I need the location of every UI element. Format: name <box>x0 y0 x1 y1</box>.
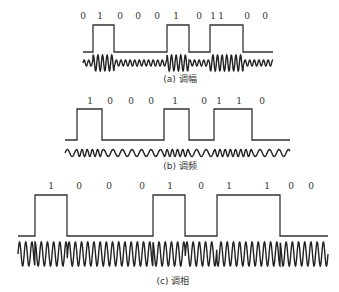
bit-label: 1 <box>97 11 103 21</box>
bit-label: 0 <box>244 11 250 21</box>
bit-label: 1 <box>167 181 173 191</box>
bit-label: 0 <box>106 181 112 191</box>
pm-waveform <box>18 242 328 266</box>
bit-label: 1 <box>172 96 178 106</box>
bit-label: 0 <box>196 11 202 21</box>
bit-label: 1 <box>216 96 222 106</box>
fm-waveform <box>65 150 290 157</box>
bit-label: 1 <box>226 181 232 191</box>
bit-labels: 100010110 <box>87 96 265 106</box>
bit-label: 0 <box>259 96 265 106</box>
panel-pm: 1000101100 (c) 调相 <box>18 181 328 286</box>
bit-label: 0 <box>117 11 123 21</box>
bit-label: 0 <box>262 11 268 21</box>
bit-label: 1 <box>173 11 179 21</box>
caption-fm: (b) 调频 <box>163 160 197 171</box>
panel-am: 01000101100 (a) 调幅 <box>80 11 273 84</box>
bit-label: 1 <box>264 181 270 191</box>
bit-label: 0 <box>128 96 134 106</box>
caption-am: (a) 调幅 <box>163 73 196 84</box>
bit-label: 0 <box>154 11 160 21</box>
modulation-diagram: 01000101100 (a) 调幅 100010110 (b) 调频 1000… <box>0 0 339 292</box>
bit-label: 0 <box>288 181 294 191</box>
bit-label: 1 <box>87 96 93 106</box>
digital-signal <box>65 109 290 140</box>
bit-label: 0 <box>76 181 82 191</box>
bit-label: 0 <box>148 96 154 106</box>
bit-labels: 1000101100 <box>48 181 314 191</box>
digital-signal <box>83 25 273 52</box>
am-waveform <box>83 55 273 71</box>
bit-label: 1 <box>218 11 224 21</box>
bit-label: 0 <box>198 181 204 191</box>
bit-label: 0 <box>308 181 314 191</box>
bit-label: 0 <box>135 11 141 21</box>
digital-signal <box>18 195 328 236</box>
bit-label: 0 <box>201 96 207 106</box>
bit-label: 1 <box>236 96 242 106</box>
bit-label: 1 <box>210 11 216 21</box>
bit-label: 1 <box>48 181 54 191</box>
bit-label: 0 <box>139 181 145 191</box>
panel-fm: 100010110 (b) 调频 <box>65 96 290 171</box>
bit-label: 0 <box>107 96 113 106</box>
caption-pm: (c) 调相 <box>157 275 190 286</box>
bit-labels: 01000101100 <box>80 11 268 21</box>
bit-label: 0 <box>80 11 86 21</box>
